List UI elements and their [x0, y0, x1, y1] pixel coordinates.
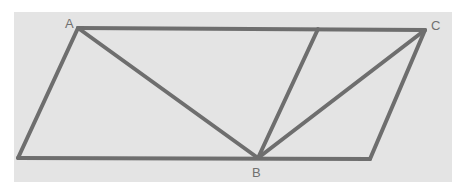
- segment-a-c: [78, 28, 425, 30]
- vertex-label-c: C: [431, 19, 440, 32]
- segment-b-m: [258, 29, 318, 158]
- segment-a-b: [78, 28, 258, 158]
- vertex-label-b: B: [252, 166, 261, 179]
- segment-bl-a: [18, 28, 78, 158]
- segment-b-c: [258, 30, 425, 158]
- vertex-label-a: A: [65, 17, 74, 30]
- segment-bl-br: [18, 158, 370, 159]
